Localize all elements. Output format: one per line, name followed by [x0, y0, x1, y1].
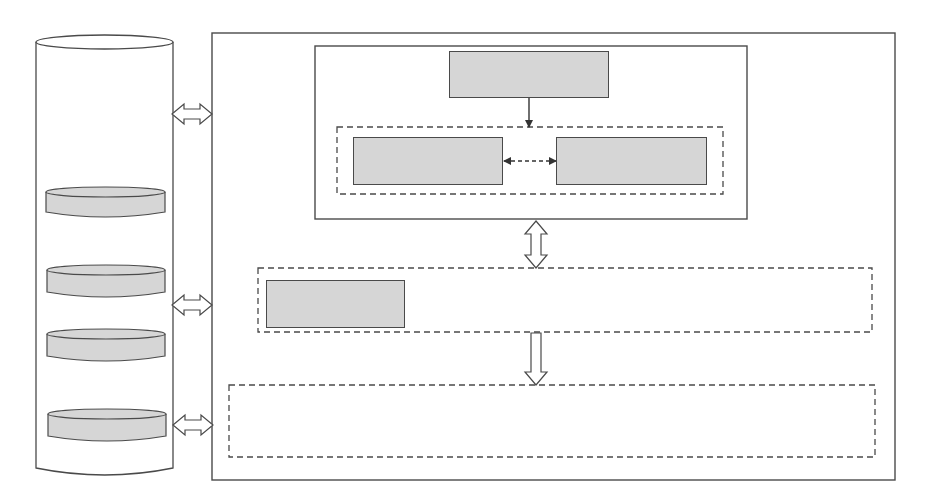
transforms-applications-arrow	[525, 333, 547, 385]
library-item-integrals-shape	[47, 329, 165, 361]
library-link-arrow-bottom	[173, 415, 213, 435]
applications-group	[229, 385, 875, 457]
library-item-derivatives-shape	[47, 265, 165, 297]
gamma-function-box	[449, 51, 609, 98]
finite-fractional-difference-box	[556, 137, 707, 185]
library-item-vectors-shape	[48, 409, 166, 441]
library-link-arrow-top	[172, 104, 212, 124]
library-link-arrow-middle	[172, 295, 212, 315]
core-transforms-arrow	[525, 221, 547, 268]
laplace-transform-box	[266, 280, 405, 328]
riemann-liouville-box	[353, 137, 503, 185]
library-item-complexes-shape	[46, 187, 165, 217]
